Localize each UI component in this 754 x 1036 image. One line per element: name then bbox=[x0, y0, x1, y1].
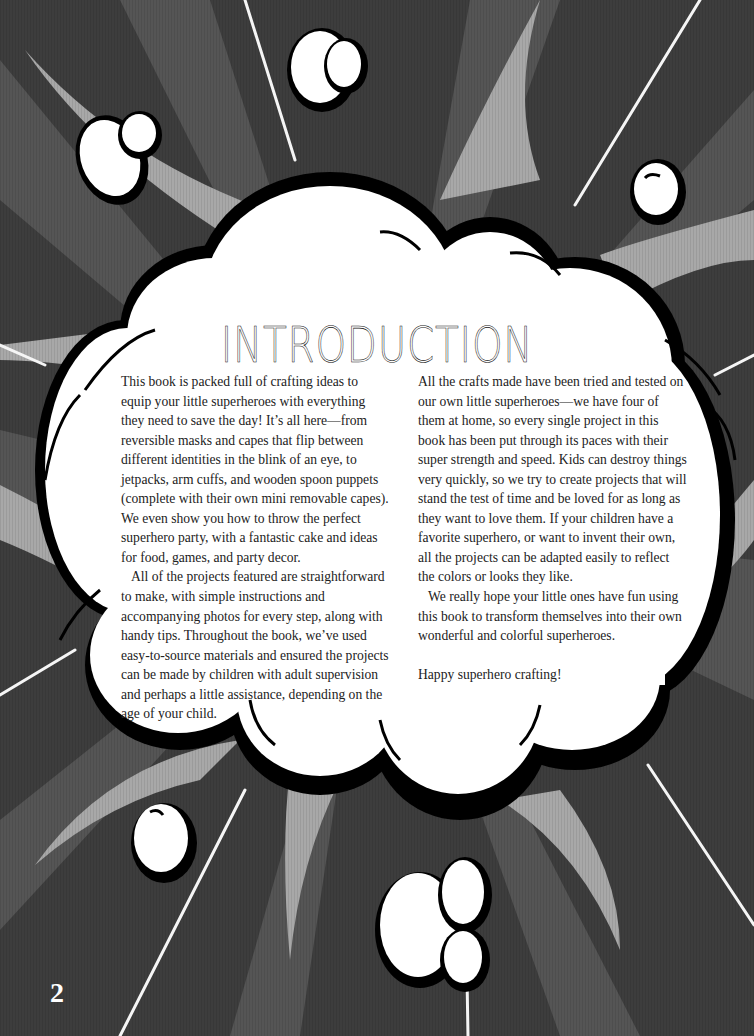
paragraph: All of the projects featured are straigh… bbox=[121, 567, 391, 723]
paragraph: We really hope your little ones have fun… bbox=[418, 587, 688, 646]
left-text-column: This book is packed full of crafting ide… bbox=[121, 372, 391, 724]
right-text-column: All the crafts made have been tried and … bbox=[418, 372, 688, 684]
paragraph: All the crafts made have been tried and … bbox=[418, 372, 688, 587]
closing-line: Happy superhero crafting! bbox=[418, 665, 688, 685]
small-cloud-top-right bbox=[630, 159, 686, 225]
small-cloud-bottom-left bbox=[131, 803, 197, 883]
page-number: 2 bbox=[50, 977, 64, 1009]
page-title: INTRODUCTION bbox=[83, 316, 671, 374]
book-page: INTRODUCTION This book is packed full of… bbox=[0, 0, 754, 1036]
paragraph: This book is packed full of crafting ide… bbox=[121, 372, 391, 567]
